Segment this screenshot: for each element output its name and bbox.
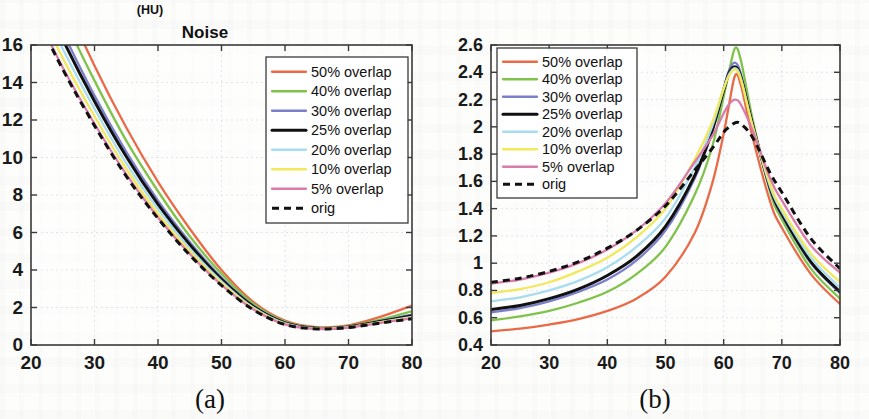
legend-label-b-7: orig <box>542 176 566 192</box>
legend-label-b-1: 40% overlap <box>542 71 623 87</box>
ytick-label-a-8: 16 <box>2 34 23 55</box>
ytick-label-b-9: 2.2 <box>458 90 483 110</box>
legend-label-b-4: 20% overlap <box>542 124 623 140</box>
ytick-label-a-1: 2 <box>12 297 23 318</box>
ytick-label-a-6: 12 <box>2 109 23 130</box>
ytick-label-b-7: 1.8 <box>458 144 483 164</box>
noise-figure: 203040506070800246810121416(HU)Noise50% … <box>0 0 869 419</box>
xtick-label-b-3: 50 <box>655 353 675 373</box>
ytick-label-b-1: 0.6 <box>458 308 483 328</box>
ytick-label-a-5: 10 <box>2 147 23 168</box>
chart-panel-a: 203040506070800246810121416(HU)Noise50% … <box>0 0 440 419</box>
legend-label-b-5: 10% overlap <box>542 141 623 157</box>
ytick-label-a-7: 14 <box>2 72 24 93</box>
legend-label-a-5: 10% overlap <box>311 161 392 177</box>
ytick-label-b-11: 2.6 <box>458 35 483 55</box>
unit-label: (HU) <box>137 3 163 17</box>
legend-label-a-2: 30% overlap <box>311 103 392 119</box>
xtick-label-a-3: 50 <box>211 352 232 373</box>
legend-label-b-6: 5% overlap <box>542 159 615 175</box>
ytick-label-a-0: 0 <box>12 334 23 355</box>
xtick-label-a-1: 30 <box>84 352 105 373</box>
ytick-label-b-4: 1.2 <box>458 226 483 246</box>
xtick-label-b-2: 40 <box>597 353 617 373</box>
xtick-label-a-0: 20 <box>20 352 41 373</box>
ytick-label-b-3: 1 <box>473 253 483 273</box>
xtick-label-a-4: 60 <box>274 352 295 373</box>
legend-label-a-1: 40% overlap <box>311 83 392 99</box>
legend-box-a <box>266 57 408 223</box>
xtick-label-b-4: 60 <box>714 353 734 373</box>
xtick-label-a-2: 40 <box>147 352 168 373</box>
ytick-label-a-2: 4 <box>12 259 23 280</box>
legend-label-a-7: orig <box>311 200 335 216</box>
legend-a[interactable]: 50% overlap40% overlap30% overlap25% ove… <box>266 57 408 223</box>
legend-label-b-3: 25% overlap <box>542 106 623 122</box>
ytick-label-a-4: 8 <box>12 184 23 205</box>
ytick-label-b-5: 1.4 <box>458 199 483 219</box>
xtick-label-b-5: 70 <box>772 353 792 373</box>
ytick-label-a-3: 6 <box>12 222 23 243</box>
xtick-label-b-1: 30 <box>539 353 559 373</box>
chart-panel-b: 203040506070800.40.60.811.21.41.61.822.2… <box>440 0 869 419</box>
xtick-label-a-6: 80 <box>401 352 422 373</box>
legend-label-b-2: 30% overlap <box>542 89 623 105</box>
legend-label-a-3: 25% overlap <box>311 122 392 138</box>
panel-caption-b: (b) <box>639 384 670 414</box>
plot-title: Noise <box>182 23 228 42</box>
ytick-label-b-8: 2 <box>473 117 483 137</box>
legend-label-a-0: 50% overlap <box>311 64 392 80</box>
legend-b[interactable]: 50% overlap40% overlap30% overlap25% ove… <box>497 48 637 198</box>
panel-caption-a: (a) <box>195 384 225 414</box>
chart-svg-b: 203040506070800.40.60.811.21.41.61.822.2… <box>440 0 869 419</box>
xtick-label-b-6: 80 <box>830 353 850 373</box>
xtick-label-a-5: 70 <box>338 352 359 373</box>
legend-label-a-4: 20% overlap <box>311 142 392 158</box>
chart-svg-a: 203040506070800246810121416(HU)Noise50% … <box>0 0 440 419</box>
legend-label-a-6: 5% overlap <box>311 181 384 197</box>
ytick-label-b-0: 0.4 <box>458 335 483 355</box>
xtick-label-b-0: 20 <box>481 353 501 373</box>
ytick-label-b-6: 1.6 <box>458 171 483 191</box>
ytick-label-b-10: 2.4 <box>458 62 483 82</box>
legend-label-b-0: 50% overlap <box>542 54 623 70</box>
ytick-label-b-2: 0.8 <box>458 280 483 300</box>
